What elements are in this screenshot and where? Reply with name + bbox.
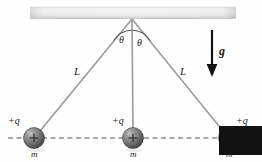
gravity-arrow [207,30,218,77]
pendulum-strings [40,19,223,131]
gravity-label: g [219,45,225,57]
ceiling-bar [30,7,236,18]
angle-label-left: θ [119,35,124,45]
length-label-left: L [74,66,80,77]
angle-label-right: θ [137,38,142,48]
length-label-right: L [180,66,186,77]
charge-label-left: +q [8,116,20,126]
physics-diagram-three-charged-pendulums: L L θ θ +q m +q m +q m g [0,0,262,162]
string-right [132,19,223,131]
vector-arrow-icon [219,45,262,162]
mass-label-middle: m [130,150,137,159]
mass-label-left: m [31,150,38,159]
string-middle [132,19,133,130]
charge-label-middle: +q [112,116,124,126]
